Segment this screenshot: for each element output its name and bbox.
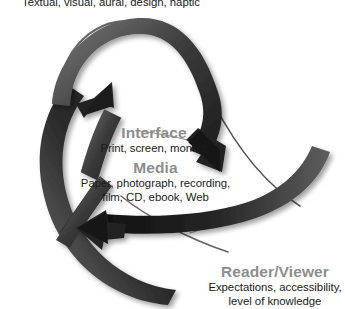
node-reader-viewer-description-line-2: level of knowledge xyxy=(205,295,345,308)
node-reader-viewer: Reader/Viewer Expectations, accessibilit… xyxy=(205,263,345,308)
node-media-description-line-2: film, CD, ebook, Web xyxy=(28,191,283,204)
node-interface: Interface Print, screen, monitor xyxy=(54,124,254,156)
node-media-description-line-1: Paper, photograph, recording, xyxy=(28,177,283,190)
node-reader-viewer-description-line-1: Expectations, accessibility, xyxy=(205,281,345,294)
node-media-heading: Media xyxy=(28,159,283,177)
diagram-canvas: Textual, visual, aural, design, haptic xyxy=(0,0,345,309)
node-interface-description-line-1: Print, screen, monitor xyxy=(54,142,254,155)
node-media: Media Paper, photograph, recording, film… xyxy=(28,159,283,204)
node-interface-heading: Interface xyxy=(54,124,254,142)
node-reader-viewer-heading: Reader/Viewer xyxy=(205,263,345,281)
